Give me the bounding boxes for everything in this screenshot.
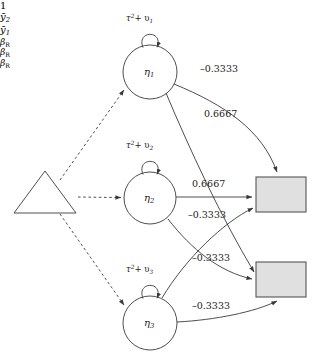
edge-label-eta3-to-ybar1: –0.3333 <box>192 300 230 311</box>
variance-label-eta1: τ2+ υ1 <box>126 13 153 24</box>
latent-node-eta1-label: η1 <box>144 66 154 79</box>
edge-label-eta1-to-ybar1: 0.6667 <box>204 108 237 119</box>
observed-node-ybar2 <box>256 177 306 212</box>
observed-node-ybar1 <box>256 262 306 297</box>
edge-constant-to-eta2 <box>78 197 121 198</box>
diagram-canvas <box>0 0 319 362</box>
latent-node-eta3-label: η3 <box>144 317 154 330</box>
edge-constant-to-eta1 <box>60 90 124 180</box>
path-diagram: η1 η2 η3 τ2+ υ1 τ2+ υ2 τ2+ υ3 1 ȳ2 ȳ1 … <box>0 0 319 362</box>
edge-label-eta1-to-ybar2: –0.3333 <box>200 63 238 74</box>
edge-eta1-to-ybar2 <box>174 84 277 172</box>
latent-node-eta2-label: η2 <box>144 192 154 205</box>
variance-label-eta3: τ2+ υ3 <box>126 264 153 275</box>
edge-constant-to-eta3 <box>60 214 124 305</box>
edge-eta2-to-ybar1 <box>168 219 252 279</box>
constant-node-triangle <box>14 171 76 213</box>
edge-label-eta2-to-ybar2: 0.6667 <box>192 178 225 189</box>
variance-label-eta2: τ2+ υ2 <box>126 140 153 151</box>
edge-label-eta2-to-ybar1: –0.3333 <box>188 209 226 220</box>
edge-label-eta3-to-ybar2: –0.3333 <box>192 252 230 263</box>
